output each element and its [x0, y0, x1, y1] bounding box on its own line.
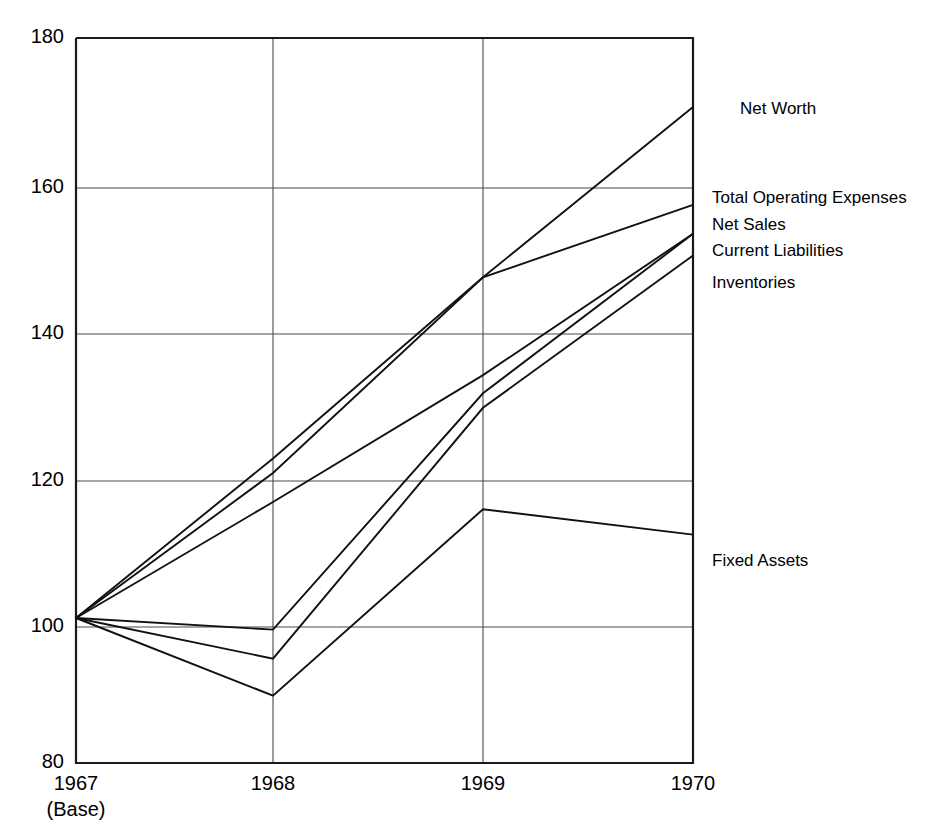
series-label-fixed-assets: Fixed Assets — [712, 551, 808, 570]
y-tick-label: 140 — [31, 321, 64, 343]
horizontal-gridlines — [76, 188, 693, 627]
y-tick-label: 120 — [31, 468, 64, 490]
y-tick-label: 160 — [31, 175, 64, 197]
series-line-current-liabilities — [76, 234, 693, 630]
series-label-current-liabilities: Current Liabilities — [712, 241, 843, 260]
series-end-labels: Net Worth Total Operating Expenses Net S… — [712, 99, 907, 570]
series-label-net-worth: Net Worth — [740, 99, 816, 118]
index-trend-line-chart: 180 160 140 120 100 80 — [0, 0, 951, 832]
chart-container: 180 160 140 120 100 80 — [0, 0, 951, 832]
x-tick-label-1967: 1967 — [54, 772, 99, 794]
series-label-total-operating-expenses: Total Operating Expenses — [712, 188, 907, 207]
y-axis-tick-labels: 180 160 140 120 100 80 — [31, 25, 64, 772]
vertical-gridlines — [273, 38, 483, 763]
x-tick-label-1970: 1970 — [671, 772, 716, 794]
series-line-inventories — [76, 256, 693, 659]
x-axis-tick-labels: 1967 (Base) 1968 1969 1970 — [47, 772, 716, 820]
x-tick-label-1969: 1969 — [461, 772, 506, 794]
series-label-net-sales: Net Sales — [712, 215, 786, 234]
series-line-fixed-assets — [76, 509, 693, 695]
series-lines — [76, 107, 693, 696]
y-tick-label: 180 — [31, 25, 64, 47]
series-line-total-operating-expenses — [76, 205, 693, 618]
x-tick-label-1968: 1968 — [251, 772, 296, 794]
series-label-inventories: Inventories — [712, 273, 795, 292]
y-tick-label: 100 — [31, 614, 64, 636]
series-line-net-sales — [76, 234, 693, 618]
y-tick-label: 80 — [42, 750, 64, 772]
x-tick-sublabel-base: (Base) — [47, 798, 106, 820]
series-line-net-worth — [76, 107, 693, 618]
